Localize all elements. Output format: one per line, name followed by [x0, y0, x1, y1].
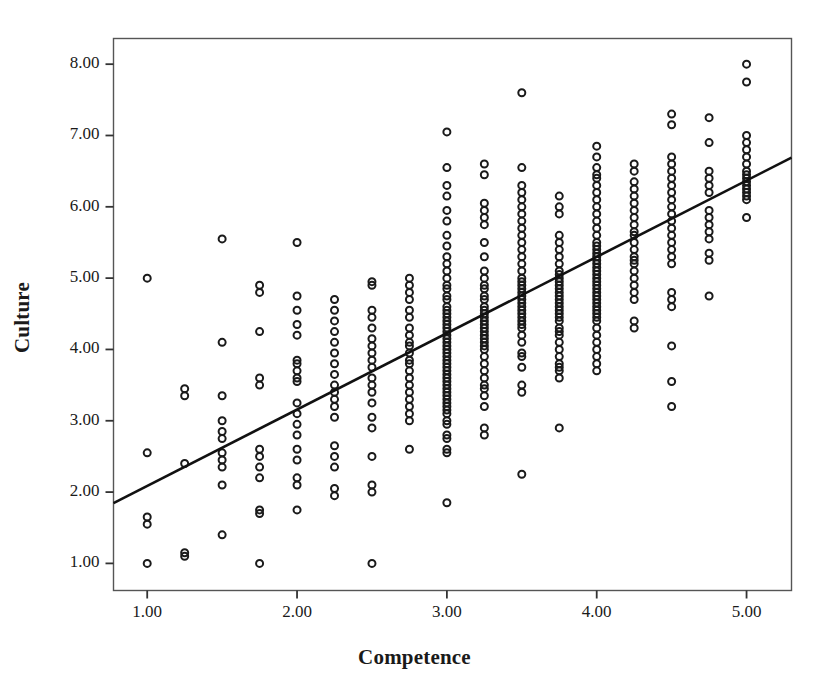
x-tick-label: 5.00	[712, 602, 782, 622]
x-axis-title: Competence	[0, 645, 829, 670]
scatter-plot-figure: 1.002.003.004.005.001.002.003.004.005.00…	[0, 0, 829, 689]
y-tick-label: 3.00	[30, 410, 100, 430]
y-tick-label: 1.00	[30, 552, 100, 572]
x-tick-label: 4.00	[562, 602, 632, 622]
plot-canvas	[0, 0, 829, 689]
x-tick-label: 3.00	[412, 602, 482, 622]
y-tick-label: 8.00	[30, 53, 100, 73]
y-tick-label: 4.00	[30, 338, 100, 358]
y-tick-label: 6.00	[30, 196, 100, 216]
y-tick-label: 7.00	[30, 124, 100, 144]
x-tick-label: 2.00	[262, 602, 332, 622]
y-tick-label: 2.00	[30, 481, 100, 501]
y-tick-label: 5.00	[30, 267, 100, 287]
x-tick-label: 1.00	[112, 602, 182, 622]
y-axis-title: Culture	[10, 258, 35, 378]
plot-frame	[114, 39, 792, 591]
